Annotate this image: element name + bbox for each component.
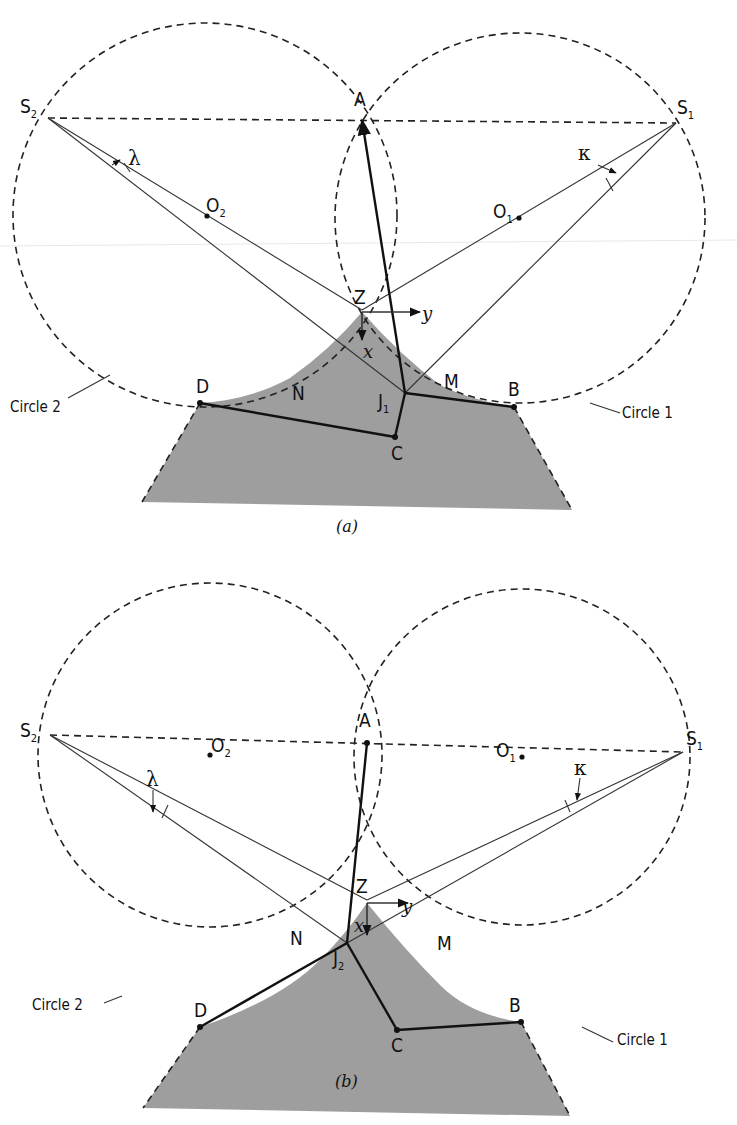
point-c-b [394,1027,400,1033]
label-kappa-b: κ [574,756,587,780]
label-s2-b: S2 [20,719,37,745]
kappa-arrow-a [598,165,616,173]
caption-b: (b) [335,1072,358,1091]
ray-s2-j-a [48,118,405,393]
ray-s2-z-a [48,118,362,310]
label-z-a: Z [354,286,366,308]
label-lambda-a: λ [128,146,141,170]
kappa-arrow-b [577,778,580,800]
point-d-b [197,1024,203,1030]
label-a-a: A [354,88,366,110]
point-b-b [518,1019,524,1025]
point-o1-a [516,215,521,220]
label-b-b: B [509,994,521,1016]
ray-s2-z-b [50,735,367,900]
label-c-a: C [391,442,403,464]
label-circle-2-a: Circle 2 [10,398,61,416]
label-circle-1-a: Circle 1 [622,404,673,422]
lambda-arrow-a [112,160,120,165]
label-circle-2-b: Circle 2 [32,996,83,1014]
label-d-b: D [194,999,207,1021]
label-d-a: D [196,375,209,397]
ray-s1-j-b [347,752,683,943]
point-b-a [511,404,517,410]
label-o1-b: O1 [496,739,516,765]
panel-a: S2 A S1 λ κ O2 O1 Z y x D N J1 M B C Cir… [10,23,705,536]
circle-1-leader-a [590,403,620,413]
label-m-b: M [437,932,452,954]
label-z-b: Z [356,875,368,897]
label-o2-b: O2 [211,734,231,760]
circle-2-leader-a [68,375,110,398]
figure-canvas: S2 A S1 λ κ O2 O1 Z y x D N J1 M B C Cir… [0,0,737,1125]
point-c-a [392,434,398,440]
label-circle-1-b: Circle 1 [617,1031,668,1049]
label-a-b: A [359,709,371,731]
point-d-a [197,400,203,406]
label-c-b: C [391,1034,403,1056]
label-y-axis-b: y [401,896,413,917]
label-m-a: M [444,370,459,392]
circle-1-leader-b [582,1027,613,1042]
label-o1-a: O1 [493,200,513,226]
label-s2-a: S2 [20,95,37,121]
panel-b: S2 A S1 λ κ O2 O1 Z y x D N J2 M B C Cir… [20,583,703,1116]
circle-2-leader-b [104,996,122,1003]
caption-a: (a) [336,517,358,536]
label-lambda-b: λ [146,767,159,791]
label-kappa-a: κ [578,141,591,165]
label-n-a: N [292,382,305,404]
ray-s1-z-b [367,752,683,900]
label-b-a: B [508,378,520,400]
label-s1-a: S1 [677,96,694,122]
scan-artifact-line [0,240,737,246]
label-y-axis-a: y [421,303,433,324]
label-s1-b: S1 [686,727,703,753]
kappa-arc-b [565,800,570,812]
label-x-axis-b: x [354,915,364,936]
label-x-axis-a: x [363,341,373,362]
point-o1-b [519,754,524,759]
label-n-b: N [290,927,303,949]
point-a-b [364,740,370,746]
shaded-region-a [142,312,572,510]
ray-s2-j-b [50,735,347,943]
ray-s1-j-a [405,123,676,393]
